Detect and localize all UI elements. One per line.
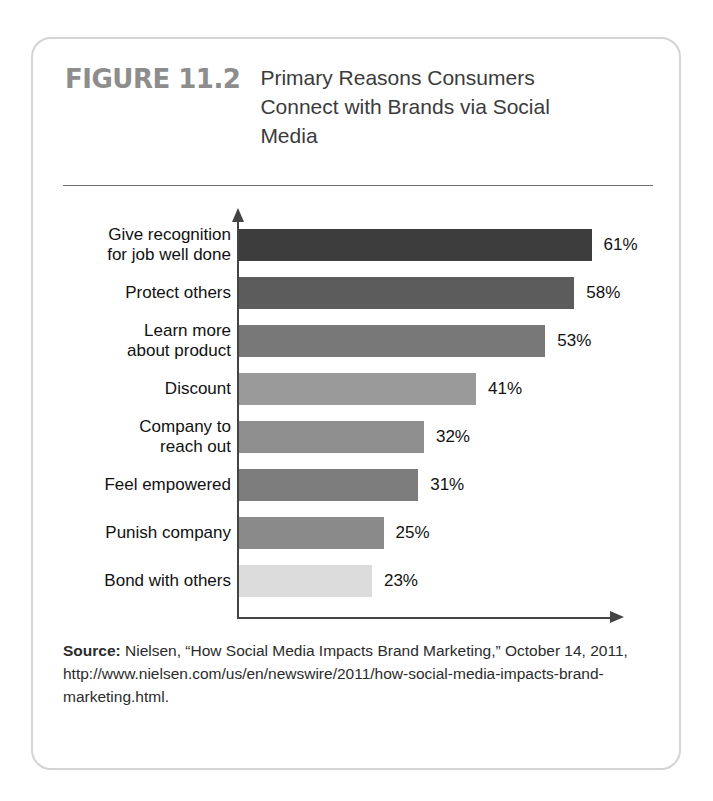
bar-value-label: 58% [586, 283, 620, 303]
bar-rect [239, 517, 384, 549]
bar-row: Protect others58% [33, 269, 679, 317]
bar-value-label: 31% [430, 475, 464, 495]
bar-category-label: Bond with others [51, 571, 231, 591]
bar-value-label: 23% [384, 571, 418, 591]
header-divider [63, 185, 653, 186]
bar-rect [239, 229, 592, 261]
bar-category-label: Learn more about product [51, 321, 231, 361]
bar-category-label: Feel empowered [51, 475, 231, 495]
bar-category-label: Company to reach out [51, 417, 231, 457]
bar-row: Learn more about product53% [33, 317, 679, 365]
figure-header: FIGURE 11.2 Primary Reasons Consumers Co… [65, 63, 655, 150]
bar-value-label: 53% [557, 331, 591, 351]
source-note: Source: Nielsen, “How Social Media Impac… [63, 639, 651, 708]
bar-rect [239, 373, 476, 405]
bar-row: Company to reach out32% [33, 413, 679, 461]
source-text: Nielsen, “How Social Media Impacts Brand… [63, 642, 628, 705]
bar-chart: Give recognition for job well done61%Pro… [33, 199, 679, 629]
bar-rect [239, 565, 372, 597]
figure-title: Primary Reasons Consumers Connect with B… [260, 63, 610, 150]
bar-category-label: Protect others [51, 283, 231, 303]
bar-row: Give recognition for job well done61% [33, 221, 679, 269]
bar-row: Bond with others23% [33, 557, 679, 605]
bar-row: Discount41% [33, 365, 679, 413]
bar-category-label: Give recognition for job well done [51, 225, 231, 265]
figure-card: FIGURE 11.2 Primary Reasons Consumers Co… [31, 37, 681, 770]
y-axis-arrow-icon [232, 208, 244, 222]
bar-value-label: 25% [396, 523, 430, 543]
bar-value-label: 61% [604, 235, 638, 255]
bar-value-label: 32% [436, 427, 470, 447]
bar-rect [239, 469, 418, 501]
bar-category-label: Discount [51, 379, 231, 399]
bar-row: Feel empowered31% [33, 461, 679, 509]
bar-rect [239, 421, 424, 453]
bar-value-label: 41% [488, 379, 522, 399]
bar-rect [239, 325, 545, 357]
x-axis-line [237, 617, 612, 619]
figure-number: FIGURE 11.2 [65, 63, 240, 94]
bar-rect [239, 277, 574, 309]
x-axis-arrow-icon [610, 611, 624, 623]
bar-row: Punish company25% [33, 509, 679, 557]
bar-category-label: Punish company [51, 523, 231, 543]
source-label: Source: [63, 642, 121, 659]
